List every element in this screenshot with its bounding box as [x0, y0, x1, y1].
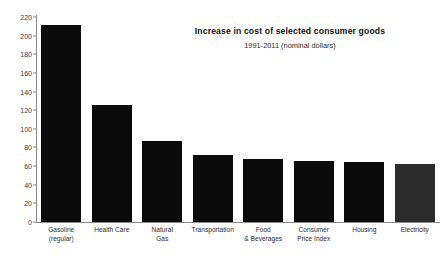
- bar[interactable]: [41, 25, 81, 222]
- bar-slot: [238, 17, 289, 222]
- y-tick-label: 80: [24, 144, 36, 151]
- bar[interactable]: [243, 159, 283, 222]
- bar[interactable]: [395, 164, 435, 222]
- bar-chart: Increase in cost of selected consumer go…: [0, 0, 446, 266]
- bar-slot: [36, 17, 87, 222]
- y-tick-label: 160: [20, 69, 36, 76]
- x-tick-label: Food& Beverages: [238, 226, 289, 243]
- y-tick-label: 60: [24, 163, 36, 170]
- y-tick-label: 200: [20, 32, 36, 39]
- y-tick-label: 220: [20, 14, 36, 21]
- x-axis-labels: Gasoline(regular)Health CareNaturalGasTr…: [36, 226, 440, 264]
- bar[interactable]: [294, 161, 334, 222]
- x-tick-label: Housing: [339, 226, 390, 235]
- bar[interactable]: [193, 155, 233, 222]
- x-tick-label: Health Care: [87, 226, 138, 235]
- x-tick-label: ConsumerPrice Index: [289, 226, 340, 243]
- bar[interactable]: [142, 141, 182, 222]
- x-tick-label: Transportation: [188, 226, 239, 235]
- x-tick-label: NaturalGas: [137, 226, 188, 243]
- bar[interactable]: [92, 105, 132, 222]
- x-tick-label: Gasoline(regular): [36, 226, 87, 243]
- bar-slot: [339, 17, 390, 222]
- plot-area: 220200180160140120100806040200: [36, 17, 440, 222]
- y-tick-label: 180: [20, 51, 36, 58]
- bar-series: [36, 17, 440, 222]
- y-tick-label: 120: [20, 107, 36, 114]
- y-tick-label: 40: [24, 181, 36, 188]
- y-tick-label: 20: [24, 200, 36, 207]
- x-tick-label: Electricity: [390, 226, 441, 235]
- bar-slot: [390, 17, 441, 222]
- bar-slot: [137, 17, 188, 222]
- bar-slot: [87, 17, 138, 222]
- y-tick-label: 140: [20, 88, 36, 95]
- y-tick-label: 100: [20, 125, 36, 132]
- x-axis-line: [36, 222, 440, 223]
- y-tick-label: 0: [28, 219, 36, 226]
- bar[interactable]: [344, 162, 384, 222]
- bar-slot: [289, 17, 340, 222]
- bar-slot: [188, 17, 239, 222]
